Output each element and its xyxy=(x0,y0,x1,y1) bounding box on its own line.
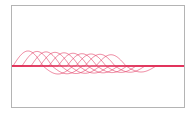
wave-line-6 xyxy=(12,53,184,73)
wave-line-4 xyxy=(12,52,184,73)
wave-plot xyxy=(0,0,196,115)
wave-line-3 xyxy=(12,52,184,74)
wave-line-5 xyxy=(12,53,184,73)
